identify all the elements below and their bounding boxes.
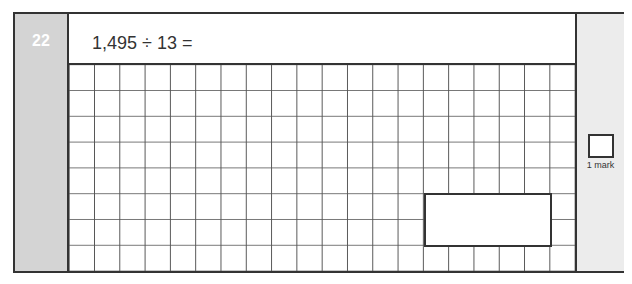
question-frame: 22 1,495 ÷ 13 = 1 mark xyxy=(13,12,624,273)
question-text: 1,495 ÷ 13 = xyxy=(92,33,192,54)
answer-box[interactable] xyxy=(424,193,552,247)
mark-box xyxy=(588,134,614,158)
marks-panel: 1 mark xyxy=(575,14,624,271)
question-header: 1,495 ÷ 13 = xyxy=(69,14,575,65)
working-grid[interactable] xyxy=(69,65,575,271)
question-number: 22 xyxy=(15,32,67,50)
question-number-panel: 22 xyxy=(15,14,69,271)
mark-label: 1 mark xyxy=(577,160,624,170)
